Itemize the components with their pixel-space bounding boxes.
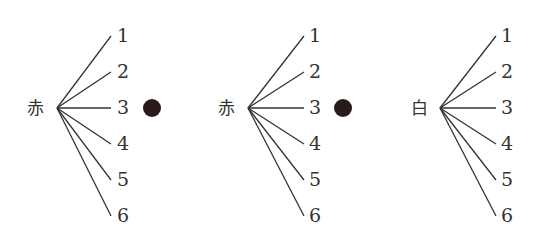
leaf-label: 3 [501, 96, 513, 118]
edge [248, 108, 304, 180]
leaf-label: 4 [501, 132, 513, 154]
tree-3: 白 1 2 3 4 5 6 [411, 24, 513, 226]
leaf-label: 3 [309, 96, 321, 118]
leaf-label: 5 [309, 168, 321, 190]
leaf-label: 4 [117, 132, 129, 154]
marker-dot-icon [143, 99, 161, 117]
leaf-label: 5 [501, 168, 513, 190]
tree-3-root: 白 [411, 98, 428, 118]
leaf-label: 1 [309, 24, 321, 46]
edge [248, 108, 304, 216]
tree-1-root: 赤 [27, 98, 44, 118]
edge [57, 36, 111, 108]
leaf-label: 6 [501, 204, 513, 226]
edge [440, 36, 496, 108]
tree-diagram: 赤 1 2 3 4 5 6 赤 1 2 3 4 5 6 白 [0, 0, 536, 244]
edge [440, 108, 496, 144]
edge [248, 36, 304, 108]
edge [440, 108, 496, 216]
edge [57, 108, 111, 180]
leaf-label: 4 [309, 132, 321, 154]
edge [57, 108, 111, 144]
leaf-label: 1 [501, 24, 513, 46]
edge [57, 72, 111, 108]
leaf-label: 2 [501, 60, 513, 82]
leaf-label: 2 [309, 60, 321, 82]
leaf-label: 1 [117, 24, 129, 46]
tree-2-root: 赤 [218, 98, 235, 118]
tree-2: 赤 1 2 3 4 5 6 [218, 24, 352, 226]
leaf-label: 3 [117, 96, 129, 118]
edge [248, 108, 304, 144]
leaf-label: 6 [117, 204, 129, 226]
marker-dot-icon [334, 99, 352, 117]
edge [248, 72, 304, 108]
edge [440, 108, 496, 180]
edge [57, 108, 111, 216]
edge [440, 72, 496, 108]
leaf-label: 2 [117, 60, 129, 82]
leaf-label: 6 [309, 204, 321, 226]
tree-1: 赤 1 2 3 4 5 6 [27, 24, 161, 226]
leaf-label: 5 [117, 168, 129, 190]
